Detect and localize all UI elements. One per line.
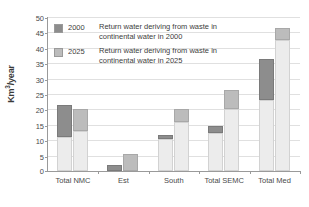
bar-segment-return-2000	[107, 165, 122, 171]
ytick-label-50: 50	[36, 14, 44, 23]
bar-segment-return-2025	[123, 154, 138, 171]
legend-description-2025: Return water deriving from waste in cont…	[99, 46, 217, 65]
bar-segment-base	[158, 139, 173, 171]
ytick-label-35: 35	[36, 60, 44, 69]
xtick-mark-2	[199, 171, 200, 174]
ytick-label-15: 15	[36, 121, 44, 130]
legend-swatch-2000-icon	[54, 24, 63, 33]
bar-segment-base	[259, 100, 274, 171]
bar-segment-base	[208, 133, 223, 171]
legend-key-2000: 2000	[68, 23, 94, 32]
legend-swatch-2025-icon	[54, 48, 63, 57]
ytick-label-45: 45	[36, 29, 44, 38]
bar-segment-return-2000	[259, 59, 274, 101]
ytick-label-10: 10	[36, 137, 44, 146]
ytick-label-40: 40	[36, 44, 44, 53]
legend-item-2000[interactable]: 2000 Return water deriving from waste in…	[54, 22, 217, 41]
bar-segment-return-2025	[174, 109, 189, 122]
bar-group-total-med: Total Med	[250, 17, 300, 171]
xtick-mark-1	[149, 171, 150, 174]
xtick-mark-3	[250, 171, 251, 174]
xtick-mark-4	[300, 171, 301, 174]
ytick-mark-0	[45, 171, 48, 172]
ytick-label-30: 30	[36, 75, 44, 84]
bar-segment-return-2025	[224, 90, 239, 109]
bar-segment-return-2025	[275, 28, 290, 40]
y-axis-title: Km3/year	[4, 52, 16, 116]
xtick-mark-0	[98, 171, 99, 174]
bar-segment-return-2000	[208, 126, 223, 133]
ytick-label-20: 20	[36, 106, 44, 115]
legend-key-2025: 2025	[68, 47, 94, 56]
bar-segment-base	[73, 131, 88, 171]
bar-segment-base	[57, 137, 72, 171]
xtick-label-total-med: Total Med	[239, 176, 309, 185]
bar-segment-base	[174, 122, 189, 171]
legend-description-2000: Return water deriving from waste in cont…	[99, 22, 217, 41]
legend-item-2025[interactable]: 2025 Return water deriving from waste in…	[54, 46, 217, 65]
bar-segment-base	[275, 40, 290, 172]
bar-segment-return-2000	[57, 105, 72, 137]
ytick-label-0: 0	[40, 167, 44, 176]
bar-segment-return-2000	[158, 135, 173, 140]
chart-legend: 2000 Return water deriving from waste in…	[52, 20, 219, 67]
chart-container: Km3/year 50 45 40 35 30 25 20	[0, 0, 309, 207]
bar-segment-return-2025	[73, 109, 88, 132]
ytick-label-25: 25	[36, 91, 44, 100]
ytick-label-5: 5	[40, 152, 44, 161]
bar-segment-base	[224, 109, 239, 171]
